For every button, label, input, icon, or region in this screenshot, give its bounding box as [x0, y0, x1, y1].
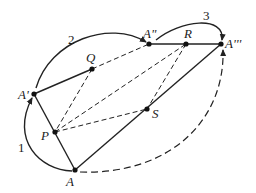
- dashed-segments: [34, 44, 186, 132]
- arc-label-2: 2: [68, 32, 75, 47]
- arc-label-3: 3: [203, 8, 210, 23]
- segment-P-R: [55, 44, 186, 132]
- segment-R-S: [147, 44, 186, 109]
- arc-label-1: 1: [18, 140, 25, 155]
- label-S: S: [152, 106, 159, 121]
- label-A: A: [65, 174, 74, 189]
- point-S: [144, 106, 149, 111]
- point-A: [72, 167, 77, 172]
- point-P: [52, 129, 57, 134]
- points: [31, 41, 223, 172]
- geometry-diagram: A A' A" A''' P Q R S 1 2 3: [0, 0, 256, 193]
- label-P: P: [40, 128, 49, 143]
- label-A1: A': [17, 87, 29, 102]
- point-A2: [146, 41, 151, 46]
- point-labels: A A' A" A''' P Q R S: [17, 26, 242, 189]
- label-Q: Q: [86, 50, 96, 65]
- label-A2: A": [142, 26, 157, 41]
- label-R: R: [183, 26, 192, 41]
- point-Q: [89, 66, 94, 71]
- transformation-arcs: [24, 23, 223, 172]
- point-A3: [218, 41, 223, 46]
- point-A1: [31, 91, 36, 96]
- segment-Q-P: [55, 69, 92, 132]
- segment-A1-R: [34, 44, 186, 94]
- point-R: [183, 41, 188, 46]
- label-A3: A''': [224, 36, 242, 51]
